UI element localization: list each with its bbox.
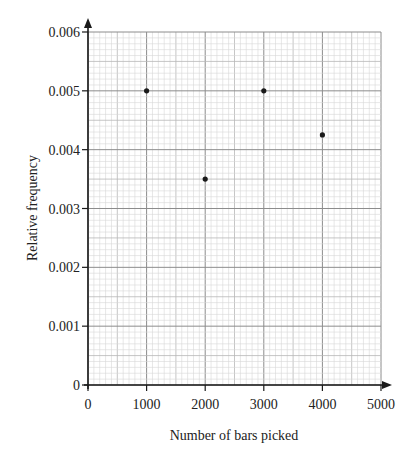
y-tick-label: 0 <box>73 378 80 393</box>
data-point <box>203 176 208 181</box>
y-axis-arrow-icon <box>84 18 92 28</box>
x-axis-ticks: 010002000300040005000 <box>85 385 396 412</box>
y-tick-label: 0.002 <box>49 260 81 275</box>
x-tick-label: 5000 <box>367 397 395 412</box>
scatter-chart: 010002000300040005000 00.0010.0020.0030.… <box>0 0 416 464</box>
y-tick-label: 0.005 <box>49 84 81 99</box>
x-tick-label: 1000 <box>133 397 161 412</box>
x-tick-label: 3000 <box>250 397 278 412</box>
x-axis-label: Number of bars picked <box>170 428 299 443</box>
data-point <box>261 88 266 93</box>
data-point <box>144 88 149 93</box>
y-tick-label: 0.004 <box>49 143 81 158</box>
y-tick-label: 0.001 <box>49 319 81 334</box>
x-tick-label: 2000 <box>191 397 219 412</box>
x-tick-label: 0 <box>85 397 92 412</box>
data-point <box>320 132 325 137</box>
y-axis-label: Relative frequency <box>25 155 40 261</box>
y-tick-label: 0.003 <box>49 202 81 217</box>
x-axis-arrow-icon <box>382 381 392 389</box>
y-tick-label: 0.006 <box>49 25 81 40</box>
x-tick-label: 4000 <box>308 397 336 412</box>
y-axis-ticks: 00.0010.0020.0030.0040.0050.006 <box>49 25 89 393</box>
graph-paper-grid <box>88 32 381 385</box>
